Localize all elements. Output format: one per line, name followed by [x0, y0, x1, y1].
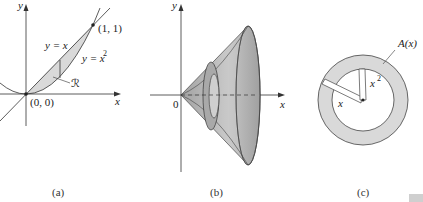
- y-axis-arrow-icon: [24, 4, 29, 11]
- c-area-label: A(x): [397, 37, 417, 50]
- a-region-label: ℛ: [71, 77, 80, 89]
- a-parabola-exponent: 2: [103, 49, 107, 58]
- point-1-1: [91, 23, 95, 27]
- area-pointer: [383, 50, 395, 64]
- b-y-axis-arrow-icon: [179, 4, 184, 11]
- panel-c: A(x) x x 2 (c): [318, 37, 417, 199]
- a-point-top-label: (1, 1): [98, 22, 122, 35]
- b-y-label: y: [171, 0, 177, 11]
- a-point-origin-label: (0, 0): [30, 96, 54, 109]
- a-parabola-label: y = x: [81, 52, 105, 64]
- a-line-label: y = x: [44, 39, 68, 51]
- c-inner-radius-exponent: 2: [377, 74, 381, 83]
- caption-b: (b): [210, 186, 223, 199]
- b-x-label: x: [279, 98, 285, 110]
- panel-a: y x (1, 1) (0, 0) y = x y = x 2 ℛ (a): [0, 0, 122, 199]
- center-point: [361, 98, 364, 101]
- caption-c: (c): [357, 186, 370, 199]
- a-y-label: y: [17, 0, 23, 11]
- b-origin-label: 0: [173, 98, 179, 110]
- washer-inner: [209, 74, 219, 118]
- inner-radius-strip: [359, 69, 366, 100]
- c-outer-radius-label: x: [337, 97, 343, 109]
- a-x-label: x: [114, 95, 120, 107]
- panel-b: y x 0 (b): [150, 0, 285, 199]
- b-x-axis-arrow-icon: [278, 93, 285, 98]
- point-origin: [24, 92, 28, 96]
- c-inner-radius-label: x: [369, 77, 375, 89]
- corner-mark: [409, 194, 423, 202]
- caption-a: (a): [52, 186, 65, 199]
- figure-canvas: y x (1, 1) (0, 0) y = x y = x 2 ℛ (a) y …: [0, 0, 423, 202]
